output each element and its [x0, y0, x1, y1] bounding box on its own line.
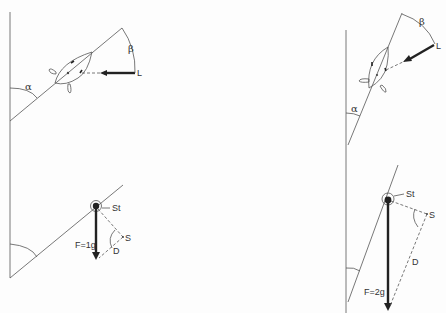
right-shear-label: S: [429, 210, 435, 220]
left-top-beta-label: β: [128, 43, 134, 54]
left-deflection-label: D: [113, 246, 120, 256]
right-shear-dashed-line: [391, 201, 427, 214]
left-top-light-label: L: [137, 68, 142, 78]
right-top-body-axis-line: [348, 13, 402, 145]
right-deflection-dashed-line: [390, 214, 427, 306]
right-statolith-leader-line: [394, 194, 404, 196]
left-top-light-arrowhead-icon: [100, 70, 107, 76]
diagram-canvas: α L β St F=1g: [0, 0, 446, 313]
left-bottom-slanted-line: [10, 185, 123, 278]
left-top-alpha-label: α: [25, 81, 32, 92]
right-deflection-label: D: [412, 257, 419, 267]
diagram-svg: α L β St F=1g: [0, 0, 446, 313]
right-force-label: F=2g: [364, 287, 385, 297]
right-top-alpha-label: α: [351, 103, 358, 114]
right-fish-body-icon: [359, 47, 388, 92]
left-top-alpha-arc: [10, 88, 37, 98]
right-top-beta-label: β: [419, 16, 425, 27]
right-top-light-arrowhead-icon: [403, 55, 412, 62]
right-bottom-slanted-line: [348, 165, 398, 302]
right-panel: α L β St F=2g: [346, 13, 441, 313]
right-bottom-angle-arc: [346, 268, 360, 271]
left-shear-dashed-line: [98, 209, 123, 237]
left-bottom-angle-arc: [10, 244, 37, 257]
left-shear-label: S: [125, 233, 131, 243]
left-statolith-label: St: [112, 203, 121, 213]
right-top-light-dashed-line: [386, 61, 405, 70]
left-panel: α L β St F=1g: [10, 12, 142, 278]
right-statolith-label: St: [406, 189, 415, 199]
right-top-light-label: L: [436, 41, 441, 51]
left-force-label: F=1g: [75, 240, 96, 250]
left-force-arrowhead-icon: [92, 252, 100, 260]
right-top-light-arrow: [408, 45, 434, 60]
right-bottom-right-angle-arc: [414, 209, 418, 227]
